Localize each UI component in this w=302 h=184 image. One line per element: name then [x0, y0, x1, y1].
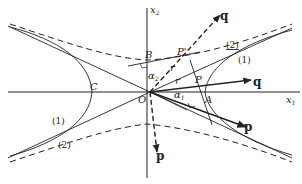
- point-B-label: B: [144, 49, 152, 60]
- segment-r-right-label: r: [175, 75, 181, 86]
- x1-axis-label: x1: [286, 94, 295, 106]
- curve-label-upper-right-2: (2): [226, 40, 239, 50]
- point-P-label: P: [194, 74, 202, 85]
- vector-q-right-label: q: [253, 75, 262, 89]
- segment-r-upper-label: r: [170, 62, 176, 73]
- hyperbola-diagram: x1 x2 O B P' P A C q q p p r r α1 α2 (2)…: [0, 0, 302, 184]
- curve-label-upper-right-1: (1): [238, 55, 251, 65]
- curve-label-lower-left-2: (2): [58, 140, 71, 150]
- curve-label-lower-left-1: (1): [52, 116, 65, 126]
- origin-label: O: [138, 94, 146, 105]
- vector-p-down: [150, 92, 157, 152]
- angle-alpha1-label: α1: [174, 89, 185, 101]
- x2-axis-label: x2: [150, 4, 160, 16]
- point-A-label: A: [204, 94, 212, 105]
- vector-q-upper-label: q: [220, 9, 229, 23]
- point-C-label: C: [90, 81, 98, 92]
- vector-p-right-label: p: [244, 120, 252, 134]
- point-P-prime-label: P': [176, 46, 186, 57]
- vector-p-down-label: p: [156, 149, 164, 163]
- vector-p-right: [150, 92, 246, 127]
- angle-alpha2-label: α2: [148, 70, 159, 82]
